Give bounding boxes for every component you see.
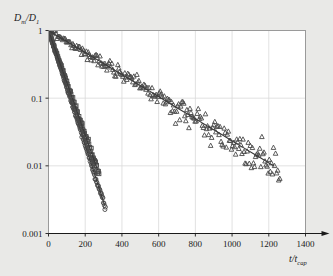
x-tick-label: 1000 [223,239,242,249]
y-tick-label: 0.1 [31,94,42,104]
figure-container: 020040060080010001200140010.10.010.001Dm… [0,0,333,276]
chart-canvas: 020040060080010001200140010.10.010.001Dm… [0,0,333,276]
x-tick-label: 400 [115,239,129,249]
y-tick-label: 0.01 [27,161,43,171]
y-tick-label: 0.001 [22,229,42,239]
x-axis-arrow-icon [322,231,330,236]
x-tick-label: 800 [189,239,203,249]
x-tick-label: 0 [46,239,51,249]
x-tick-label: 1200 [260,239,279,249]
x-tick-label: 200 [78,239,92,249]
x-axis-title: t/tcap [289,253,307,266]
x-tick-label: 1400 [297,239,316,249]
y-axis-title: Dm/D1 [13,12,39,25]
plot-area-background [49,31,306,234]
y-tick-label: 1 [38,26,43,36]
x-tick-label: 600 [152,239,166,249]
